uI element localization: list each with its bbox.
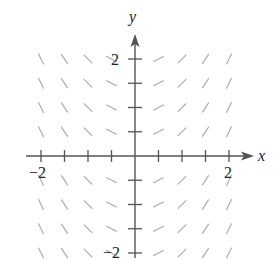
- slope-segment: [84, 55, 92, 63]
- slope-segment: [61, 103, 67, 112]
- slope-segment: [178, 128, 186, 136]
- slope-segment: [202, 224, 208, 233]
- slope-segment: [39, 200, 44, 210]
- slope-segment: [39, 54, 44, 64]
- slope-segment: [107, 178, 117, 183]
- slope-segment: [84, 104, 92, 112]
- x-axis-label: x: [257, 147, 265, 164]
- slope-segment: [154, 81, 164, 86]
- slope-segment: [107, 226, 117, 231]
- slope-segment: [61, 79, 67, 88]
- slope-segment: [61, 200, 67, 209]
- slope-segment: [61, 248, 67, 257]
- y-tick-label-2: 2: [111, 51, 119, 68]
- x-tick-label-2: 2: [224, 164, 232, 181]
- slope-segment: [178, 249, 186, 257]
- slope-segment: [202, 176, 208, 185]
- slope-segment: [107, 129, 117, 134]
- slope-segment: [61, 224, 67, 233]
- slope-segment: [154, 129, 164, 134]
- slope-segment: [84, 128, 92, 136]
- slope-segment: [202, 200, 208, 209]
- x-tick-label-neg2: −2: [29, 164, 46, 181]
- slope-segment: [202, 127, 208, 136]
- slope-segment: [178, 79, 186, 87]
- slope-segment: [107, 81, 117, 86]
- slope-segment: [84, 201, 92, 209]
- slope-segment: [178, 225, 186, 233]
- slope-segment: [227, 248, 232, 258]
- slope-segment: [39, 78, 44, 88]
- slope-segment: [39, 224, 44, 234]
- slope-segment: [61, 176, 67, 185]
- y-axis-label: y: [127, 8, 137, 26]
- slope-segment: [39, 127, 44, 137]
- slope-segment: [39, 103, 44, 113]
- slope-segment: [227, 200, 232, 210]
- slope-segment: [61, 54, 67, 63]
- slope-segment: [202, 54, 208, 63]
- slope-segment: [178, 55, 186, 63]
- slope-segment: [227, 103, 232, 113]
- slope-segment: [202, 79, 208, 88]
- slope-segment: [39, 248, 44, 258]
- slope-segment: [154, 251, 164, 256]
- slope-segment: [227, 78, 232, 88]
- slope-segment: [154, 105, 164, 110]
- slope-segment: [154, 202, 164, 207]
- slope-field-diagram: x y −2 2 2 −2: [0, 0, 280, 260]
- slope-segment: [84, 176, 92, 184]
- slope-segment: [154, 226, 164, 231]
- slope-segment: [107, 202, 117, 207]
- slope-segment: [84, 79, 92, 87]
- slope-segment: [227, 54, 232, 64]
- slope-segment: [202, 248, 208, 257]
- slope-segment: [227, 224, 232, 234]
- slope-segment: [61, 127, 67, 136]
- slope-segment: [178, 104, 186, 112]
- slope-segment: [227, 127, 232, 137]
- slope-segment: [178, 201, 186, 209]
- slope-segment: [154, 178, 164, 183]
- slope-segment: [154, 57, 164, 62]
- slope-segment: [202, 103, 208, 112]
- slope-segment: [84, 249, 92, 257]
- y-tick-label-neg2: −2: [103, 244, 120, 260]
- slope-segment: [178, 176, 186, 184]
- slope-segment: [107, 105, 117, 110]
- slope-segment: [84, 225, 92, 233]
